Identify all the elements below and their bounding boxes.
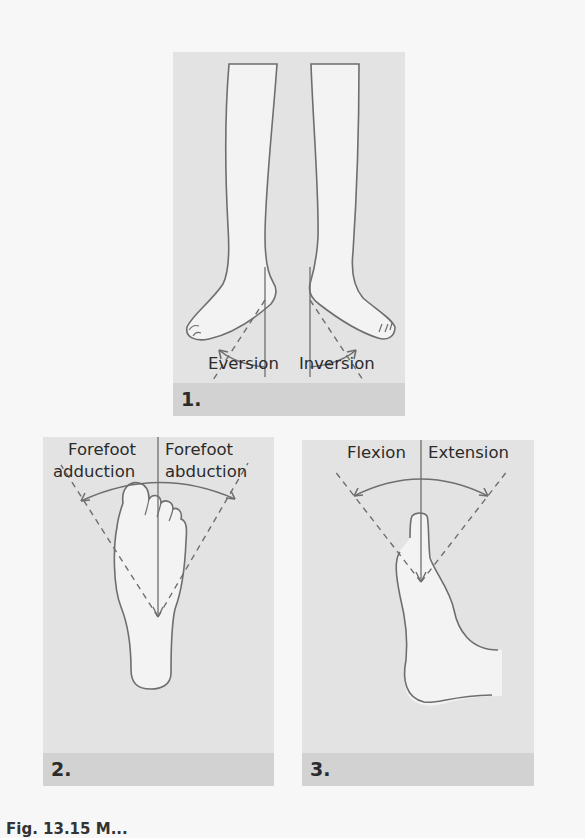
label-eversion: Eversion [208,353,279,375]
label-forefoot-abduction-line2: abduction [165,461,247,483]
label-extension: Extension [428,442,509,464]
panel-number: 2. [51,758,71,780]
panel-flexion-extension: Flexion Extension 3. [302,440,534,786]
panel-number-strip: 2. [43,753,274,786]
foot-sole-illustration [43,437,274,786]
foot-side-illustration [302,440,534,786]
panel-forefoot-adduction-abduction: Forefoot adduction Forefoot abduction 2. [43,437,274,786]
label-inversion: Inversion [299,353,375,375]
label-flexion: Flexion [347,442,406,464]
figure-caption: Fig. 13.15 M... [6,820,128,838]
label-forefoot-adduction-line2: adduction [53,461,135,483]
panel-number: 1. [181,388,201,410]
panel-number: 3. [310,758,330,780]
label-forefoot-abduction-line1: Forefoot [165,439,233,461]
panel-eversion-inversion: Eversion Inversion 1. [173,52,405,416]
panel-number-strip: 1. [173,383,405,416]
panel-number-strip: 3. [302,753,534,786]
label-forefoot-adduction-line1: Forefoot [68,439,136,461]
